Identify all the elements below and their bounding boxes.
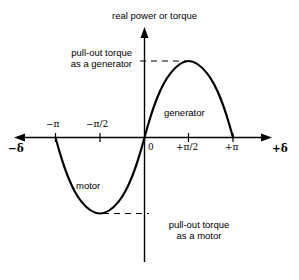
pullout-generator-line1: pull-out torque bbox=[42, 47, 132, 58]
motor-region-label: motor bbox=[76, 180, 100, 191]
pullout-torque-generator-annotation: pull-out torque as a generator bbox=[42, 47, 132, 69]
generator-region-label: generator bbox=[164, 107, 205, 118]
chart-title: real power or torque bbox=[112, 10, 197, 21]
pullout-torque-motor-annotation: pull-out torque as a motor bbox=[152, 219, 246, 241]
pullout-generator-line2: as a generator bbox=[42, 58, 132, 69]
pullout-motor-line2: as a motor bbox=[152, 230, 246, 241]
x-tick-label-pos-pi-half: +π/2 bbox=[176, 142, 198, 153]
sine-power-angle-figure: real power or torque pull-out torque as … bbox=[0, 0, 299, 280]
x-axis-left-arrowhead bbox=[14, 134, 25, 142]
x-tick-label-neg-pi-half: −π/2 bbox=[86, 119, 108, 130]
x-axis-negative-delta-label: −δ bbox=[8, 143, 24, 154]
plot-canvas bbox=[0, 0, 299, 280]
x-tick-label-zero: 0 bbox=[148, 142, 154, 153]
x-axis-right-arrowhead bbox=[261, 134, 272, 142]
x-axis-positive-delta-label: +δ bbox=[272, 143, 288, 154]
pullout-motor-line1: pull-out torque bbox=[152, 219, 246, 230]
x-tick-label-pos-pi: +π bbox=[225, 142, 238, 153]
y-axis-arrowhead bbox=[141, 27, 149, 38]
x-tick-label-neg-pi: −π bbox=[46, 119, 59, 130]
